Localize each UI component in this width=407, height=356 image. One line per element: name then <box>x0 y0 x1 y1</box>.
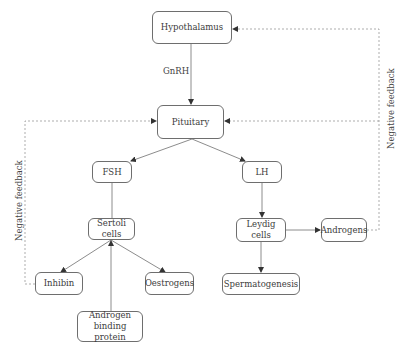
node-spermatogenesis: Spermatogenesis <box>222 273 300 295</box>
node-label: Sertoli cells <box>89 218 134 240</box>
node-androgens: Androgens <box>321 218 367 242</box>
node-label: Spermatogenesis <box>224 279 298 290</box>
feedback-inhibin-pituitary <box>25 121 156 284</box>
connector-layer <box>0 0 407 356</box>
arrow-sertoli-inhibin <box>61 240 111 272</box>
node-oestrogens: Oestrogens <box>145 272 194 295</box>
node-label-line2: binding protein <box>78 321 142 343</box>
edge-label-gnrh: GnRH <box>163 66 189 76</box>
node-label-line1: Androgen <box>89 310 131 321</box>
node-fsh: FSH <box>92 161 132 183</box>
node-label: Androgens <box>321 225 368 236</box>
feedback-androgens-hypothalamus <box>233 29 379 230</box>
node-leydig-cells: Leydig cells <box>236 218 286 242</box>
node-label: FSH <box>102 167 121 178</box>
node-label: Leydig cells <box>237 219 285 241</box>
node-lh: LH <box>242 161 282 183</box>
node-label: Pituitary <box>172 117 209 128</box>
node-inhibin: Inhibin <box>35 272 83 295</box>
negative-feedback-label-left: Negative feedback <box>14 161 24 241</box>
node-label: Hypothalamus <box>161 22 223 33</box>
negative-feedback-label-right: Negative feedback <box>386 69 396 149</box>
node-label: Oestrogens <box>145 278 194 289</box>
node-sertoli-cells: Sertoli cells <box>88 218 135 240</box>
node-label: LH <box>255 167 268 178</box>
node-androgen-binding-protein: Androgen binding protein <box>77 311 143 342</box>
arrow-pituitary-fsh <box>131 139 192 161</box>
arrow-pituitary-lh <box>192 139 245 161</box>
node-hypothalamus: Hypothalamus <box>152 11 232 44</box>
node-pituitary: Pituitary <box>157 105 224 139</box>
node-label: Inhibin <box>44 278 75 289</box>
arrow-sertoli-oestrogens <box>111 240 165 272</box>
